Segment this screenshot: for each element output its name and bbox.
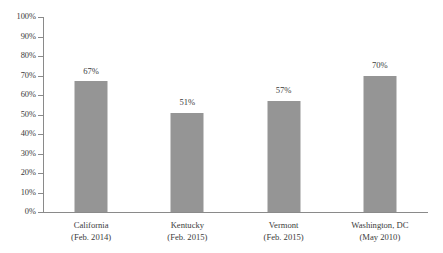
- bar-value-label: 70%: [372, 61, 388, 70]
- bar-slot: 57%: [236, 17, 332, 212]
- y-tick-label: 0%: [25, 208, 36, 216]
- bar-value-label: 57%: [276, 86, 292, 95]
- x-tick-label-line: Washington, DC: [320, 219, 440, 231]
- bar[interactable]: [171, 113, 204, 212]
- y-tick-label: 60%: [21, 91, 36, 99]
- y-tick-label: 50%: [21, 110, 36, 118]
- bar[interactable]: [267, 101, 300, 212]
- bar-chart: 0%10%20%30%40%50%60%70%80%90%100% 67%51%…: [0, 0, 443, 253]
- y-tick-label: 100%: [16, 13, 36, 21]
- y-tick-label: 90%: [21, 32, 36, 40]
- bar-slot: 51%: [139, 17, 235, 212]
- x-tick-label-line: (May 2010): [320, 231, 440, 243]
- bar[interactable]: [363, 76, 396, 213]
- y-tick-label: 30%: [21, 149, 36, 157]
- bar-value-label: 51%: [179, 98, 195, 107]
- plot-area: 0%10%20%30%40%50%60%70%80%90%100% 67%51%…: [43, 17, 428, 212]
- x-axis-line: [43, 212, 428, 213]
- bar-slot: 67%: [43, 17, 139, 212]
- y-tick-label: 10%: [21, 188, 36, 196]
- y-tick-label: 70%: [21, 71, 36, 79]
- bar-slot: 70%: [332, 17, 428, 212]
- bar-value-label: 67%: [83, 67, 99, 76]
- y-tick-label: 80%: [21, 52, 36, 60]
- bar[interactable]: [75, 81, 108, 212]
- y-tick-label: 20%: [21, 169, 36, 177]
- x-tick-label: Washington, DC(May 2010): [320, 219, 440, 243]
- y-tick-label: 40%: [21, 130, 36, 138]
- y-tick-mark: [38, 212, 43, 213]
